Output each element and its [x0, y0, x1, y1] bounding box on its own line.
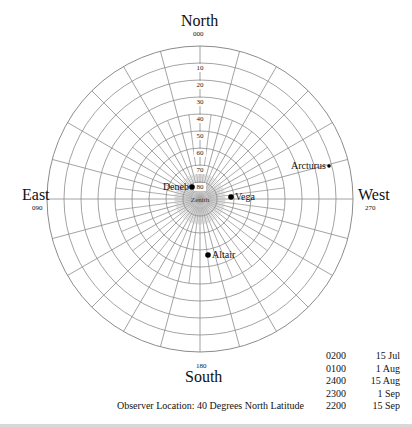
- table-row: 020015 Jul: [326, 350, 400, 363]
- table-row: 220015 Sep: [326, 400, 400, 413]
- date-cell: 15 Sep: [360, 400, 400, 413]
- observation-times-table: 020015 Jul 01001 Aug 240015 Aug 23001 Se…: [326, 350, 400, 413]
- altitude-label-60: 60: [197, 149, 205, 157]
- altitude-label-70: 70: [197, 166, 205, 174]
- time-cell: 0200: [326, 350, 360, 363]
- table-row: 01001 Aug: [326, 363, 400, 376]
- altitude-label-20: 20: [197, 81, 205, 89]
- date-cell: 15 Jul: [360, 350, 400, 363]
- west-label: West: [358, 186, 390, 204]
- altitude-label-10: 10: [197, 64, 205, 72]
- east-label: East: [22, 186, 50, 204]
- date-cell: 15 Aug: [360, 375, 400, 388]
- altitude-label-30: 30: [197, 98, 205, 106]
- time-cell: 2200: [326, 400, 360, 413]
- time-cell: 2300: [326, 388, 360, 401]
- west-azimuth: 270: [365, 204, 376, 212]
- zenith-label: Zenith: [191, 196, 210, 204]
- time-cell: 0100: [326, 363, 360, 376]
- table-row: 240015 Aug: [326, 375, 400, 388]
- star-vega-dot: [228, 194, 234, 200]
- east-azimuth: 090: [32, 204, 43, 212]
- altitude-label-40: 40: [197, 115, 205, 123]
- observer-location: Observer Location: 40 Degrees North Lati…: [117, 400, 304, 411]
- date-cell: 1 Aug: [360, 363, 400, 376]
- time-cell: 2400: [326, 375, 360, 388]
- date-cell: 1 Sep: [360, 388, 400, 401]
- altitude-label-80: 80: [197, 183, 205, 191]
- star-arcturus-label: Arcturus: [291, 160, 326, 171]
- star-altair-dot: [205, 252, 211, 258]
- star-deneb-dot: [189, 184, 195, 190]
- table-row: 23001 Sep: [326, 388, 400, 401]
- north-azimuth: 000: [193, 30, 204, 38]
- north-label: North: [181, 12, 218, 30]
- south-label: South: [185, 368, 222, 386]
- altitude-label-50: 50: [197, 132, 205, 140]
- star-vega-label: Vega: [235, 191, 256, 202]
- star-altair-label: Altair: [212, 249, 236, 260]
- star-deneb-label: Deneb: [163, 181, 189, 192]
- star-arcturus-dot: [327, 164, 331, 168]
